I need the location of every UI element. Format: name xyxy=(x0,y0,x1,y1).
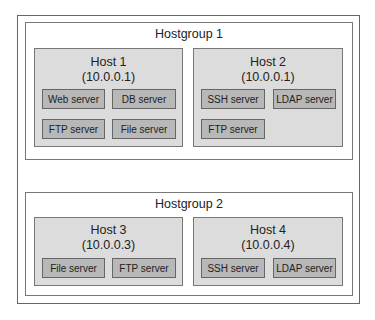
service-ssh-server: SSH server xyxy=(201,258,265,278)
host-2: Host 2 (10.0.0.1) SSH server LDAP server… xyxy=(193,48,343,147)
service-ftp-server: FTP server xyxy=(112,258,176,278)
host-ip: (10.0.0.3) xyxy=(35,238,182,253)
hostgroup-title: Hostgroup 1 xyxy=(26,27,352,41)
service-ldap-server: LDAP server xyxy=(273,258,336,278)
service-db-server: DB server xyxy=(112,89,176,109)
host-4: Host 4 (10.0.0.4) SSH server LDAP server xyxy=(193,217,343,286)
service-ldap-server: LDAP server xyxy=(273,89,336,109)
service-ssh-server: SSH server xyxy=(201,89,265,109)
service-web-server: Web server xyxy=(42,89,105,109)
host-1: Host 1 (10.0.0.1) Web server DB server F… xyxy=(34,48,183,147)
host-ip: (10.0.0.1) xyxy=(194,70,342,85)
hostgroup-title: Hostgroup 2 xyxy=(26,197,352,211)
service-file-server: File server xyxy=(112,119,176,139)
host-name: Host 3 xyxy=(35,223,182,238)
host-ip: (10.0.0.1) xyxy=(35,70,182,85)
host-name: Host 2 xyxy=(194,55,342,70)
service-ftp-server: FTP server xyxy=(42,119,105,139)
service-file-server: File server xyxy=(42,258,105,278)
host-name: Host 4 xyxy=(194,223,342,238)
service-ftp-server: FTP server xyxy=(201,119,265,139)
host-ip: (10.0.0.4) xyxy=(194,238,342,253)
host-name: Host 1 xyxy=(35,55,182,70)
host-3: Host 3 (10.0.0.3) File server FTP server xyxy=(34,217,183,286)
